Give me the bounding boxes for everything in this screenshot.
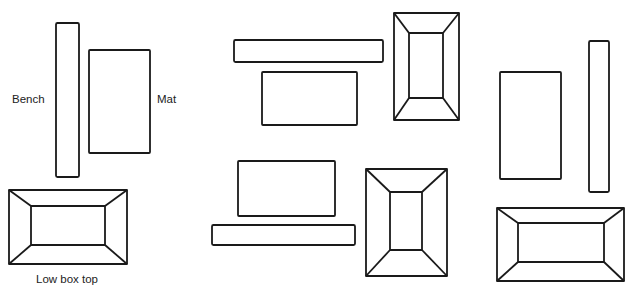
mat-label: Mat <box>157 93 176 105</box>
box-outer-edge <box>366 169 447 276</box>
mat <box>500 72 561 179</box>
box-bevel-line <box>422 169 447 192</box>
box-bevel-line <box>105 190 127 206</box>
box-inner-top <box>409 33 443 98</box>
low-box-top <box>497 208 624 281</box>
diagram-drawing <box>0 0 625 289</box>
arrangement-3 <box>212 161 447 276</box>
equipment-layout-diagram: Bench Mat Low box top <box>0 0 625 289</box>
box-outer-edge <box>497 208 624 281</box>
mat <box>238 161 335 216</box>
box-bevel-line <box>497 208 518 223</box>
box-inner-top <box>31 206 105 245</box>
box-bevel-line <box>604 208 624 223</box>
box-bevel-line <box>422 250 447 276</box>
bench-vertical <box>589 41 609 192</box>
bench-vertical <box>56 23 79 177</box>
box-bevel-line <box>105 245 127 264</box>
low-box-top <box>9 190 127 264</box>
box-bevel-line <box>9 245 31 264</box>
box-bevel-line <box>497 262 518 281</box>
low-box-top <box>366 169 447 276</box>
arrangement-2 <box>234 13 459 125</box>
box-bevel-line <box>394 13 409 33</box>
arrangement-1 <box>9 23 150 264</box>
box-bevel-line <box>394 98 409 120</box>
bench-label: Bench <box>12 93 45 105</box>
low-box-top <box>394 13 459 120</box>
box-outer-edge <box>9 190 127 264</box>
box-inner-top <box>518 223 604 262</box>
box-outer-edge <box>394 13 459 120</box>
box-bevel-line <box>443 13 459 33</box>
mat <box>89 50 150 153</box>
box-bevel-line <box>9 190 31 206</box>
bench-horizontal <box>212 225 355 245</box>
box-bevel-line <box>443 98 459 120</box>
box-bevel-line <box>366 250 390 276</box>
mat <box>262 72 357 125</box>
box-bevel-line <box>604 262 624 281</box>
bench-horizontal <box>234 40 383 62</box>
box-inner-top <box>390 192 422 250</box>
low-box-top-label: Low box top <box>36 273 98 285</box>
box-bevel-line <box>366 169 390 192</box>
arrangement-4 <box>497 41 624 281</box>
